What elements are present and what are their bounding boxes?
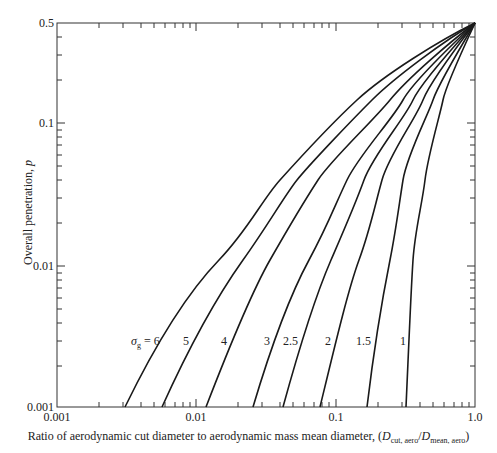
- x-axis-label-text: Ratio of aerodynamic cut diameter to aer…: [28, 429, 382, 443]
- x-label-D-mean: D: [422, 429, 431, 443]
- y-axis-label-var: p: [21, 160, 35, 166]
- x-axis-label: Ratio of aerodynamic cut diameter to aer…: [0, 429, 497, 445]
- curve-sigma-4: [206, 23, 475, 407]
- curve-sigma-5: [162, 23, 475, 407]
- curves: [125, 23, 475, 407]
- curve-label-2.5: 2.5: [283, 334, 298, 349]
- x-tick-0.001: 0.001: [32, 410, 82, 425]
- curve-label-1.5: 1.5: [356, 334, 371, 349]
- curve-label-5: 5: [183, 334, 189, 349]
- curve-label-2: 2: [325, 334, 331, 349]
- y-axis-label-text: Overall penetration,: [21, 166, 35, 265]
- curve-sigma-1: [406, 23, 475, 407]
- curve-label-sigma-6: σg = 6: [131, 334, 160, 350]
- plot-frame: [57, 23, 475, 407]
- y-axis-label: Overall penetration, p: [21, 143, 36, 283]
- x-tick-0.01: 0.01: [171, 410, 221, 425]
- curve-sigma-2.5: [283, 23, 475, 407]
- curve-label-1: 1: [400, 334, 406, 349]
- curve-label-3: 3: [264, 334, 270, 349]
- curve-label-4: 4: [221, 334, 227, 349]
- x-label-close: ): [465, 429, 469, 443]
- x-label-sub-mean: mean, aero: [430, 436, 465, 445]
- x-label-D-cut: D: [382, 429, 391, 443]
- y-tick-0.1: 0.1: [6, 116, 54, 131]
- y-tick-0.5: 0.5: [6, 16, 54, 31]
- curve-sigma-1.5: [367, 23, 475, 407]
- chart-canvas: [0, 0, 497, 453]
- x-label-sub-cut: cut, aero: [391, 436, 419, 445]
- sigma-eq: = 6: [141, 334, 160, 348]
- x-tick-1.0: 1.0: [450, 410, 497, 425]
- x-tick-0.1: 0.1: [311, 410, 361, 425]
